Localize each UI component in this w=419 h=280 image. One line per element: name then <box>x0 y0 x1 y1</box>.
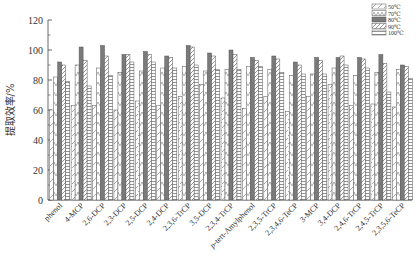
bar <box>353 76 357 201</box>
legend-label: 90℃ <box>388 24 401 30</box>
bar <box>126 55 130 201</box>
bar <box>118 73 122 201</box>
bar <box>109 76 113 201</box>
bar <box>268 70 272 201</box>
bar <box>122 55 126 201</box>
bar <box>289 76 293 201</box>
bar <box>280 73 284 201</box>
bar <box>392 107 396 200</box>
bar <box>97 68 101 200</box>
bar <box>258 67 262 201</box>
bar <box>83 61 87 201</box>
bar <box>307 97 311 201</box>
bar <box>276 59 280 200</box>
legend-label: 80℃ <box>388 17 401 23</box>
bar <box>93 106 97 201</box>
bar <box>139 71 143 200</box>
bars-group <box>50 46 413 201</box>
bar <box>216 70 220 201</box>
bar <box>229 50 233 200</box>
bar <box>54 77 58 200</box>
bar <box>264 97 268 201</box>
legend-label: 70℃ <box>388 11 401 17</box>
bar <box>212 56 216 200</box>
y-tick-label: 40 <box>33 135 43 146</box>
bar <box>101 46 105 201</box>
bar <box>242 109 246 201</box>
bar <box>157 106 161 201</box>
bar <box>396 70 400 201</box>
bar <box>250 58 254 201</box>
bar <box>190 47 194 200</box>
bar <box>383 64 387 201</box>
bar <box>71 106 75 201</box>
bar <box>293 62 297 200</box>
y-tick-label: 120 <box>28 15 43 26</box>
bar-chart: 020406080100120提取效率/% phenol4-MCP2,6-DCP… <box>0 0 419 280</box>
y-tick-label: 0 <box>38 195 43 206</box>
bar <box>344 65 348 200</box>
x-category-label: phenol <box>42 201 64 223</box>
x-axis-labels: phenol4-MCP2,6-DCP2,3-DCP2,5-DCP2,4-DCP2… <box>42 201 407 251</box>
bar <box>332 68 336 200</box>
bar <box>87 86 91 200</box>
bar <box>200 85 204 201</box>
legend-swatch <box>372 11 386 16</box>
bar <box>165 56 169 200</box>
bar <box>272 56 276 200</box>
bar <box>375 73 379 201</box>
bar <box>254 61 258 201</box>
y-tick-label: 60 <box>33 105 43 116</box>
bar <box>323 74 327 200</box>
bar <box>66 82 70 201</box>
bar <box>75 65 79 200</box>
legend-swatch <box>372 17 386 22</box>
bar <box>297 65 301 200</box>
legend-label: 50℃ <box>388 4 401 10</box>
bar <box>379 55 383 201</box>
bar <box>169 58 173 201</box>
legend-label: 100℃ <box>388 30 404 36</box>
bar <box>186 46 190 201</box>
bar <box>178 97 182 201</box>
bar <box>408 79 412 201</box>
bar <box>315 58 319 201</box>
bar <box>221 98 225 200</box>
bar <box>130 62 134 200</box>
bar <box>357 58 361 201</box>
bar <box>50 110 54 200</box>
bar <box>225 70 229 201</box>
bar <box>233 55 237 201</box>
y-tick-label: 20 <box>33 165 43 176</box>
y-tick-label: 100 <box>28 45 43 56</box>
bar <box>371 104 375 200</box>
bar <box>208 53 212 200</box>
bar <box>246 67 250 201</box>
bar <box>79 47 83 200</box>
bar <box>400 65 404 200</box>
bar <box>361 59 365 200</box>
bar <box>204 71 208 200</box>
bar <box>147 55 151 201</box>
bar <box>62 65 66 200</box>
legend: 50℃70℃80℃90℃100℃ <box>372 4 404 36</box>
bar <box>319 61 323 201</box>
bar <box>349 106 353 201</box>
y-tick-label: 80 <box>33 75 43 86</box>
bar <box>143 52 147 201</box>
bar <box>114 110 118 200</box>
bar <box>161 68 165 200</box>
bar <box>340 56 344 200</box>
bar <box>135 101 139 200</box>
bar <box>336 58 340 201</box>
bar <box>151 62 155 200</box>
legend-swatch <box>372 4 386 9</box>
bar <box>311 74 315 200</box>
bar <box>173 68 177 200</box>
bar <box>237 70 241 201</box>
bar <box>182 67 186 201</box>
bar <box>404 67 408 201</box>
bar <box>387 92 391 200</box>
legend-swatch <box>372 24 386 29</box>
bar <box>194 65 198 200</box>
